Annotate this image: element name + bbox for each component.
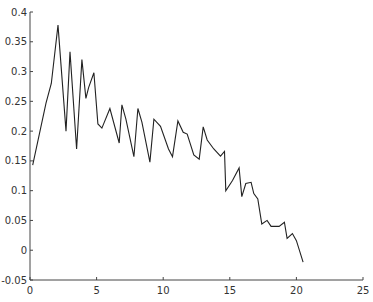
x-tick-label: 20 bbox=[290, 285, 303, 296]
line-chart: -0.0500.050.10.150.20.250.30.350.4 05101… bbox=[0, 0, 373, 302]
y-tick-label: 0.3 bbox=[11, 66, 27, 77]
y-tick-label: 0.1 bbox=[11, 185, 27, 196]
x-axis: 0510152025 bbox=[27, 277, 370, 296]
data-line bbox=[33, 25, 303, 262]
y-tick-label: 0.15 bbox=[5, 155, 27, 166]
y-axis: -0.0500.050.10.150.20.250.30.350.4 bbox=[1, 7, 33, 286]
y-tick-label: 0.05 bbox=[5, 215, 27, 226]
y-tick-label: 0.4 bbox=[11, 7, 27, 18]
x-tick-label: 15 bbox=[223, 285, 236, 296]
y-tick-label: 0 bbox=[21, 245, 27, 256]
x-tick-label: 5 bbox=[93, 285, 99, 296]
y-tick-label: 0.2 bbox=[11, 126, 27, 137]
y-tick-label: 0.35 bbox=[5, 36, 27, 47]
y-tick-label: 0.25 bbox=[5, 96, 27, 107]
x-tick-label: 0 bbox=[27, 285, 33, 296]
y-tick-label: -0.05 bbox=[1, 275, 27, 286]
x-tick-label: 25 bbox=[357, 285, 370, 296]
x-tick-label: 10 bbox=[157, 285, 170, 296]
